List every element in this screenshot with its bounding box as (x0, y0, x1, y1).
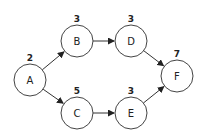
node-f: F7 (161, 49, 193, 92)
network-diagram: A2B3C5D3E3F7 (0, 0, 203, 136)
node-duration: 7 (174, 49, 180, 59)
node-duration: 5 (74, 86, 80, 96)
edge-e-f (143, 87, 163, 103)
node-duration: 3 (128, 14, 134, 24)
node-label: B (74, 36, 81, 47)
node-e: E3 (115, 86, 147, 129)
node-c: C5 (61, 86, 93, 129)
nodes: A2B3C5D3E3F7 (14, 14, 193, 129)
edge-a-b (42, 52, 64, 70)
node-label: E (128, 108, 134, 119)
node-duration: 3 (74, 14, 80, 24)
edge-a-c (43, 89, 63, 103)
node-b: B3 (61, 14, 93, 57)
node-label: D (127, 36, 135, 47)
node-label: F (174, 71, 180, 82)
node-a: A2 (14, 53, 46, 96)
node-label: C (74, 108, 81, 119)
edges (42, 41, 163, 113)
edge-d-f (144, 51, 164, 66)
node-duration: 3 (128, 86, 134, 96)
node-d: D3 (115, 14, 147, 57)
node-duration: 2 (27, 53, 33, 63)
node-label: A (27, 75, 34, 86)
